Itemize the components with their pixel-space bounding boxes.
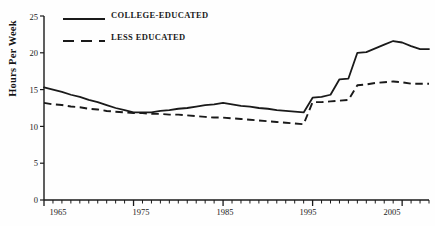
series-line-college-educated	[44, 41, 429, 112]
x-axis-tick-marks	[44, 200, 429, 206]
plot-area	[0, 0, 435, 226]
chart-figure: Hours Per Week 25 20 15 10 5 0 1965 1975…	[0, 0, 435, 226]
axis-lines	[44, 16, 429, 200]
